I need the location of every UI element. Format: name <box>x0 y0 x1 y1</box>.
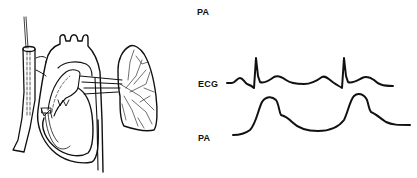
diagram-figure: PA ECG PA <box>0 0 417 178</box>
lung-icon <box>118 45 157 130</box>
top-pa-label: PA <box>197 7 209 17</box>
heart-icon <box>36 35 122 172</box>
catheter-icon <box>24 17 28 48</box>
ecg-label: ECG <box>198 79 218 89</box>
vena-cava-icon <box>13 47 35 153</box>
bottom-pa-label: PA <box>198 133 210 143</box>
ecg-waveform <box>227 58 393 88</box>
heart-illustration <box>0 0 417 178</box>
pa-pressure-waveform <box>233 94 410 135</box>
